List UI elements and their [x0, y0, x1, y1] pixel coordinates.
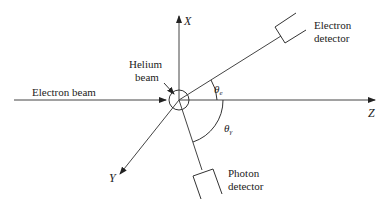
z-axis-label: Z [368, 106, 375, 120]
electron-detector-label-2: detector [314, 32, 350, 44]
x-axis-label: X [183, 14, 192, 28]
photon-detector [179, 100, 222, 199]
photon-detector-label-2: detector [228, 180, 264, 192]
electron-beam-label: Electron beam [32, 86, 96, 98]
helium-beam-label-2: beam [135, 71, 159, 83]
theta-gamma-arc [193, 100, 223, 142]
y-axis [120, 100, 179, 174]
theta-gamma-label: θγ [224, 122, 232, 136]
y-axis-label: Y [109, 171, 117, 185]
scattering-diagram: Electron beam Helium beam Electron detec… [0, 0, 387, 212]
electron-detector-label-1: Electron [314, 19, 352, 31]
photon-detector-label-1: Photon [228, 167, 260, 179]
theta-e-label: θe [214, 83, 223, 97]
electron-detector [179, 13, 306, 100]
helium-beam-label-1: Helium [129, 58, 162, 70]
